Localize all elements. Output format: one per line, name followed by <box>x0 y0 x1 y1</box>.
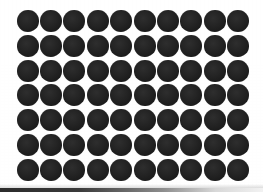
dot-cell <box>86 58 109 83</box>
dot-cell <box>227 157 250 182</box>
dot-circle <box>87 35 109 57</box>
dot-circle <box>17 159 39 181</box>
dot-cell <box>227 108 250 133</box>
dot-cell <box>227 9 250 34</box>
dot-cell <box>16 34 39 59</box>
dot-cell <box>133 34 156 59</box>
dot-circle <box>180 159 202 181</box>
dot-cell <box>156 58 179 83</box>
dot-cell <box>133 157 156 182</box>
dot-cell <box>39 108 62 133</box>
dot-cell <box>156 133 179 158</box>
dot-cell <box>203 83 226 108</box>
dot-circle <box>40 60 62 82</box>
dot-cell <box>110 157 133 182</box>
dot-circle <box>227 159 249 181</box>
dot-cell <box>16 133 39 158</box>
dot-cell <box>110 58 133 83</box>
dot-circle <box>17 134 39 156</box>
dot-cell <box>63 133 86 158</box>
dot-circle <box>63 109 85 131</box>
dot-circle <box>87 109 109 131</box>
dot-cell <box>86 108 109 133</box>
dot-cell <box>110 133 133 158</box>
dot-circle <box>180 10 202 32</box>
dot-cell <box>63 58 86 83</box>
dot-cell <box>39 9 62 34</box>
dot-circle <box>180 109 202 131</box>
dot-circle <box>204 10 226 32</box>
dot-circle <box>40 84 62 106</box>
dot-cell <box>133 108 156 133</box>
dot-cell <box>133 133 156 158</box>
dot-circle <box>17 84 39 106</box>
dot-cell <box>156 34 179 59</box>
dot-cell <box>180 34 203 59</box>
dot-cell <box>110 108 133 133</box>
dot-circle <box>110 84 132 106</box>
dot-cell <box>203 9 226 34</box>
dot-cell <box>86 133 109 158</box>
dot-circle <box>17 35 39 57</box>
dot-circle <box>63 134 85 156</box>
dot-cell <box>180 108 203 133</box>
scanned-dot-grid-image <box>0 0 263 192</box>
dot-cell <box>86 9 109 34</box>
dot-cell <box>156 83 179 108</box>
dot-circle <box>227 60 249 82</box>
dot-cell <box>39 34 62 59</box>
dot-circle <box>110 35 132 57</box>
dot-circle <box>204 134 226 156</box>
dot-circle <box>204 35 226 57</box>
scan-edge-shadow <box>0 188 263 192</box>
dot-circle <box>110 10 132 32</box>
dot-cell <box>203 34 226 59</box>
dot-cell <box>133 58 156 83</box>
dot-cell <box>16 58 39 83</box>
dot-circle <box>204 159 226 181</box>
dot-circle <box>157 84 179 106</box>
dot-circle <box>17 10 39 32</box>
dot-cell <box>203 157 226 182</box>
dot-circle <box>227 109 249 131</box>
dot-circle <box>63 10 85 32</box>
dot-cell <box>110 9 133 34</box>
dot-cell <box>203 58 226 83</box>
dot-cell <box>39 133 62 158</box>
dot-circle <box>110 159 132 181</box>
dot-circle <box>17 109 39 131</box>
dot-circle <box>180 84 202 106</box>
dot-cell <box>180 9 203 34</box>
dot-cell <box>227 83 250 108</box>
dot-circle <box>180 134 202 156</box>
dot-circle <box>40 159 62 181</box>
dot-cell <box>227 34 250 59</box>
dot-cell <box>16 83 39 108</box>
dot-circle <box>204 84 226 106</box>
dot-circle <box>227 134 249 156</box>
dot-circle <box>87 134 109 156</box>
dot-circle <box>63 84 85 106</box>
dot-circle <box>63 60 85 82</box>
dot-cell <box>227 133 250 158</box>
dot-circle <box>87 84 109 106</box>
dot-cell <box>227 58 250 83</box>
dot-cell <box>39 157 62 182</box>
dot-circle <box>40 10 62 32</box>
dot-cell <box>63 108 86 133</box>
dot-cell <box>63 157 86 182</box>
dot-circle <box>63 35 85 57</box>
dot-cell <box>203 133 226 158</box>
dot-circle <box>17 60 39 82</box>
dot-circle <box>134 10 156 32</box>
dot-circle <box>180 35 202 57</box>
dot-circle <box>134 84 156 106</box>
dot-cell <box>16 157 39 182</box>
dot-circle <box>157 159 179 181</box>
dot-circle <box>157 35 179 57</box>
dot-cell <box>180 157 203 182</box>
dot-circle <box>157 134 179 156</box>
dot-circle <box>40 35 62 57</box>
dot-circle <box>87 10 109 32</box>
dot-circle <box>134 109 156 131</box>
